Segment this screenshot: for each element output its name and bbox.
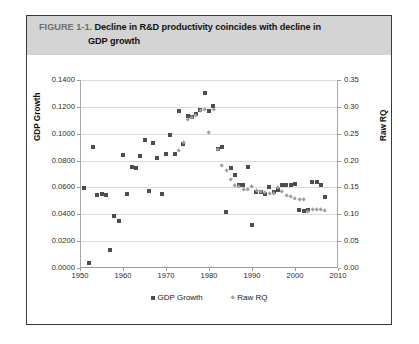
data-point-gdp-growth	[117, 219, 121, 223]
data-point-gdp-growth	[155, 156, 159, 160]
data-point-gdp-growth	[164, 152, 168, 156]
y-axis-right-tick-mark	[338, 214, 341, 215]
x-axis-tick-label: 1950	[60, 271, 100, 280]
data-point-gdp-growth	[173, 152, 177, 156]
gridline-horizontal	[81, 107, 337, 108]
data-point-gdp-growth	[250, 223, 254, 227]
data-point-gdp-growth	[121, 153, 125, 157]
figure-title-line1: Decline in R&D productivity coincides wi…	[95, 22, 321, 32]
figure-number: FIGURE 1-1.	[39, 22, 92, 32]
figure-title-line2: GDP growth	[88, 35, 381, 49]
y-axis-right-tick-label: 0.15	[344, 183, 384, 191]
data-point-gdp-growth	[293, 182, 297, 186]
legend-item[interactable]: Raw RQ	[231, 293, 268, 302]
y-axis-right-tick-mark	[338, 134, 341, 135]
x-axis-tick-label: 2000	[275, 271, 315, 280]
x-axis-tick-label: 1990	[232, 271, 272, 280]
y-axis-left-tick-label: 0.1000	[15, 130, 75, 138]
gridline-horizontal	[81, 187, 337, 188]
figure-title: FIGURE 1-1. Decline in R&D productivity …	[39, 21, 381, 48]
y-axis-left-tick-label: 0.0200	[15, 237, 75, 245]
x-axis-tick-mark	[209, 268, 210, 271]
data-point-gdp-growth	[112, 214, 116, 218]
legend-label: GDP Growth	[158, 293, 203, 302]
y-axis-left-tick-mark	[77, 161, 80, 162]
y-axis-left-tick-label: 0.0800	[15, 157, 75, 165]
data-point-gdp-growth	[104, 193, 108, 197]
x-axis-tick-mark	[295, 268, 296, 271]
legend-item[interactable]: GDP Growth	[151, 293, 203, 302]
y-axis-left-tick-mark	[77, 80, 80, 81]
data-point-gdp-growth	[160, 192, 164, 196]
y-axis-right-tick-label: 0.20	[344, 157, 384, 165]
chart-legend: GDP GrowthRaw RQ	[27, 293, 391, 302]
data-point-gdp-growth	[229, 166, 233, 170]
data-point-gdp-growth	[134, 166, 138, 170]
y-axis-right-tick-mark	[338, 107, 341, 108]
gridline-horizontal	[81, 214, 337, 215]
legend-marker-diamond-icon	[230, 295, 235, 300]
x-axis-tick-mark	[123, 268, 124, 271]
data-point-raw-rq	[224, 168, 229, 173]
gridline-horizontal	[81, 161, 337, 162]
y-axis-left-tick-mark	[77, 187, 80, 188]
y-axis-left-tick-mark	[77, 241, 80, 242]
data-point-gdp-growth	[246, 165, 250, 169]
data-point-gdp-growth	[319, 183, 323, 187]
y-axis-left-tick-mark	[77, 214, 80, 215]
data-point-gdp-growth	[267, 185, 271, 189]
y-axis-left-tick-mark	[77, 134, 80, 135]
y-axis-right-tick-label: 0.30	[344, 103, 384, 111]
data-point-gdp-growth	[177, 109, 181, 113]
x-axis-tick-mark	[252, 268, 253, 271]
figure-container: FIGURE 1-1. Decline in R&D productivity …	[26, 15, 392, 325]
y-axis-left-tick-label: 0.1400	[15, 76, 75, 84]
data-point-gdp-growth	[147, 189, 151, 193]
data-point-gdp-growth	[224, 210, 228, 214]
y-axis-left-tick-label: 0.1200	[15, 103, 75, 111]
y-axis-right-tick-mark	[338, 80, 341, 81]
data-point-gdp-growth	[203, 91, 207, 95]
y-axis-left-tick-mark	[77, 107, 80, 108]
data-point-gdp-growth	[323, 195, 327, 199]
data-point-gdp-growth	[87, 261, 91, 265]
data-point-gdp-growth	[138, 154, 142, 158]
y-axis-right-tick-label: 0.25	[344, 130, 384, 138]
gridline-horizontal	[81, 241, 337, 242]
data-point-gdp-growth	[82, 186, 86, 190]
data-point-gdp-growth	[125, 192, 129, 196]
y-axis-right-tick-mark	[338, 241, 341, 242]
data-point-gdp-growth	[233, 173, 237, 177]
chart-area: GDP Growth Raw RQ 0.00000.02000.04000.06…	[27, 55, 391, 324]
x-axis-tick-label: 2010	[318, 271, 358, 280]
legend-label: Raw RQ	[237, 293, 267, 302]
y-axis-right-tick-label: 0.05	[344, 237, 384, 245]
data-point-gdp-growth	[220, 145, 224, 149]
gridline-horizontal	[81, 80, 337, 81]
x-axis-tick-label: 1960	[103, 271, 143, 280]
x-axis-tick-mark	[338, 268, 339, 271]
x-axis-tick-mark	[166, 268, 167, 271]
x-axis-tick-mark	[80, 268, 81, 271]
legend-marker-square-icon	[151, 296, 155, 300]
data-point-gdp-growth	[91, 145, 95, 149]
y-axis-right-tick-label: 0.10	[344, 210, 384, 218]
x-axis-tick-label: 1970	[146, 271, 186, 280]
y-axis-right-tick-label: 0.35	[344, 76, 384, 84]
y-axis-right-tick-mark	[338, 187, 341, 188]
data-point-gdp-growth	[151, 141, 155, 145]
y-axis-right-tick-mark	[338, 161, 341, 162]
y-axis-left-tick-label: 0.0600	[15, 183, 75, 191]
data-point-gdp-growth	[168, 133, 172, 137]
data-point-gdp-growth	[108, 248, 112, 252]
x-axis-tick-label: 1980	[189, 271, 229, 280]
y-axis-left-tick-label: 0.0400	[15, 210, 75, 218]
data-point-gdp-growth	[143, 138, 147, 142]
